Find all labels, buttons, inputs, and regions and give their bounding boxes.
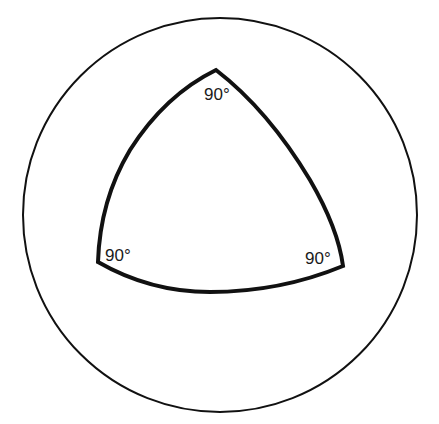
angle-label-left: 90° bbox=[105, 246, 131, 265]
sphere-outline bbox=[23, 18, 417, 412]
angle-label-right: 90° bbox=[305, 249, 331, 268]
spherical-triangle-diagram: 90° 90° 90° bbox=[0, 0, 439, 424]
angle-label-top: 90° bbox=[204, 85, 230, 104]
